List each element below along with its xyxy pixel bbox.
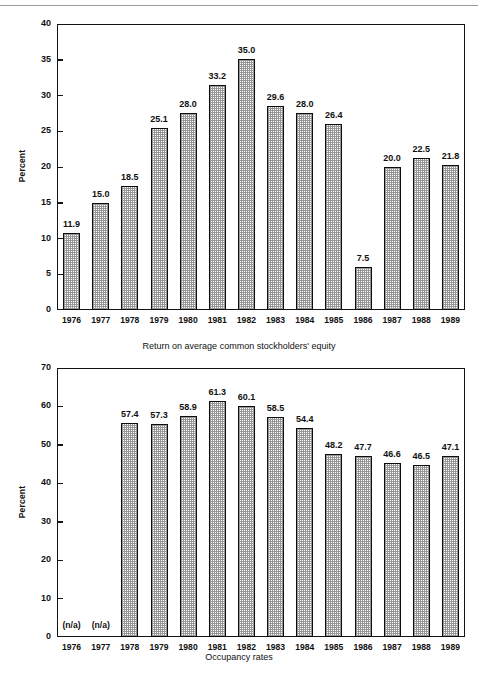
y-axis-tick-label: 30 — [25, 516, 51, 526]
y-axis-tick-label: 60 — [25, 400, 51, 410]
bar — [209, 401, 226, 637]
bar-value-label: 47.1 — [434, 442, 467, 452]
x-axis-tick-label: 1982 — [232, 642, 261, 652]
x-axis-tick-label: 1984 — [290, 642, 319, 652]
y-axis-tick-mark — [58, 521, 63, 522]
missing-value-label: (n/a) — [86, 620, 115, 630]
y-axis-tick-mark — [58, 444, 63, 445]
chart-occupancy-rates: Percent0102030405060701976(n/a)1977(n/a)… — [0, 0, 478, 673]
y-axis-tick-mark — [58, 406, 63, 407]
bar — [238, 406, 255, 637]
bar — [413, 465, 430, 637]
x-axis-tick-label: 1976 — [57, 642, 86, 652]
bar — [296, 428, 313, 637]
y-axis-tick-label: 10 — [25, 593, 51, 603]
bar — [355, 456, 372, 637]
bar-value-label: 60.1 — [230, 392, 263, 402]
x-axis-tick-label: 1983 — [261, 642, 290, 652]
chart-caption-return-on-equity: Return on average common stockholders' e… — [0, 341, 478, 351]
bar — [267, 417, 284, 637]
missing-value-label: (n/a) — [57, 620, 86, 630]
y-axis-tick-label: 20 — [25, 554, 51, 564]
bar-value-label: 58.9 — [172, 402, 205, 412]
x-axis-tick-label: 1980 — [174, 642, 203, 652]
y-axis-tick-label: 70 — [25, 362, 51, 372]
bar — [151, 424, 168, 637]
y-axis-tick-label: 0 — [25, 631, 51, 641]
y-axis-tick-mark — [58, 483, 63, 484]
y-axis-tick-label: 40 — [25, 477, 51, 487]
bar — [384, 463, 401, 637]
x-axis-tick-label: 1979 — [144, 642, 173, 652]
y-axis-tick-mark — [58, 598, 63, 599]
x-axis-tick-label: 1981 — [203, 642, 232, 652]
x-axis-tick-label: 1986 — [348, 642, 377, 652]
chart-caption-occupancy-rates: Occupancy rates — [0, 652, 478, 662]
bar-value-label: 58.5 — [259, 403, 292, 413]
x-axis-tick-label: 1978 — [115, 642, 144, 652]
bar — [180, 416, 197, 637]
y-axis-tick-label: 50 — [25, 439, 51, 449]
x-axis-tick-label: 1988 — [407, 642, 436, 652]
y-axis-tick-mark — [58, 368, 63, 369]
x-axis-tick-label: 1977 — [86, 642, 115, 652]
x-axis-tick-label: 1989 — [436, 642, 465, 652]
x-axis-tick-label: 1985 — [319, 642, 348, 652]
bar — [121, 423, 138, 637]
y-axis-tick-mark — [58, 560, 63, 561]
bar — [325, 454, 342, 637]
x-axis-tick-label: 1987 — [378, 642, 407, 652]
bar-value-label: 54.4 — [288, 414, 321, 424]
bar — [442, 456, 459, 637]
